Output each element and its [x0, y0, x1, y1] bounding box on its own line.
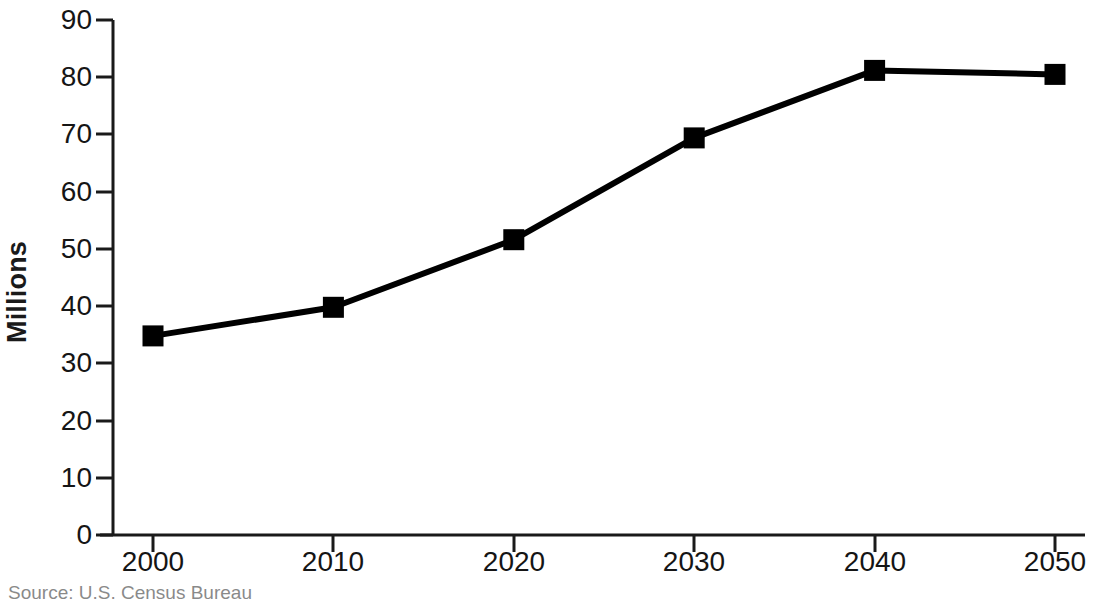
y-axis-ticks — [96, 20, 113, 535]
data-point-2050 — [1045, 64, 1066, 85]
x-axis-ticks — [153, 535, 1055, 552]
data-point-2040 — [864, 60, 885, 81]
data-point-2010 — [323, 297, 344, 318]
series-line-millions — [153, 70, 1055, 336]
data-point-2020 — [503, 229, 524, 250]
source-note: Source: U.S. Census Bureau — [8, 582, 252, 603]
data-point-2000 — [143, 325, 164, 346]
series-markers — [143, 60, 1066, 347]
data-point-2030 — [684, 127, 705, 148]
